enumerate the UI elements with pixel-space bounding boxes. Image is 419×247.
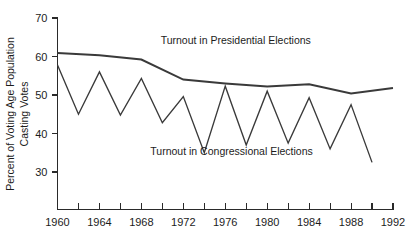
voter-turnout-line-chart: 3040506070 19601964196819721976198019841… xyxy=(0,0,419,247)
y-axis-title-group: Percent of Voting Age Population Casting… xyxy=(4,37,30,191)
y-axis-title-line-2: Casting Votes xyxy=(18,82,30,147)
x-axis-tick-labels: 196019641968197219761980198419881992 xyxy=(45,216,405,228)
y-axis-group: 3040506070 xyxy=(35,12,57,210)
x-tick-label: 1972 xyxy=(171,216,195,228)
y-tick-label: 60 xyxy=(35,51,47,63)
congressional-series-label: Turnout in Congressional Elections xyxy=(150,145,312,157)
x-tick-label: 1960 xyxy=(45,216,69,228)
x-tick-label: 1984 xyxy=(297,216,321,228)
y-tick-label: 30 xyxy=(35,166,47,178)
x-tick-label: 1964 xyxy=(87,216,111,228)
x-tick-label: 1988 xyxy=(339,216,363,228)
x-tick-label: 1980 xyxy=(255,216,279,228)
chart-container: 3040506070 19601964196819721976198019841… xyxy=(0,0,419,247)
y-axis-tick-labels: 3040506070 xyxy=(35,12,47,178)
series-annotations: Turnout in Presidential Elections Turnou… xyxy=(150,34,312,157)
y-tick-label: 40 xyxy=(35,128,47,140)
y-axis-title-line-1: Percent of Voting Age Population xyxy=(4,37,16,191)
y-tick-label: 50 xyxy=(35,89,47,101)
x-axis-group: 196019641968197219761980198419881992 xyxy=(45,203,405,228)
y-axis-tick-marks xyxy=(52,18,58,172)
x-tick-label: 1992 xyxy=(381,216,405,228)
presidential-series-label: Turnout in Presidential Elections xyxy=(161,34,311,46)
x-tick-label: 1976 xyxy=(213,216,237,228)
y-tick-label: 70 xyxy=(35,12,47,24)
x-tick-label: 1968 xyxy=(129,216,153,228)
